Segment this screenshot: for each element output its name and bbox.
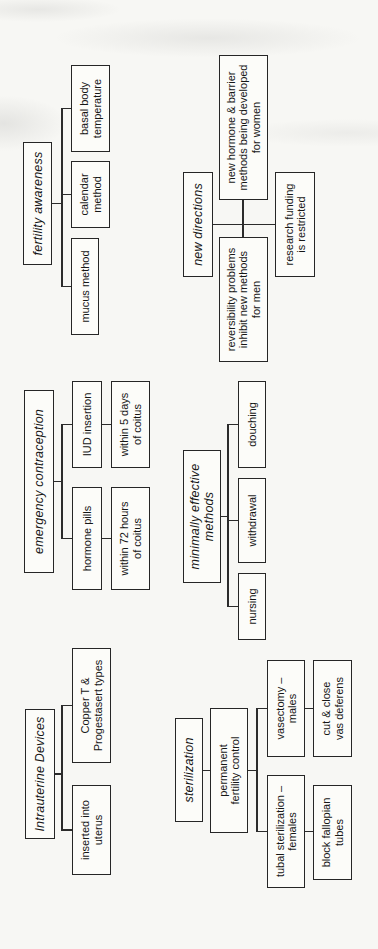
node-iud-insertion: IUD insertion [72, 381, 102, 468]
node-mucus-method: mucus method [71, 238, 99, 335]
node-cut-close-vas-deferens: cut & close vas deferens [313, 660, 352, 757]
heading-label: fertility awareness [31, 152, 45, 256]
node-inserted-into-uterus: inserted into uterus [72, 785, 111, 875]
node-label: block fallopian tubes [320, 798, 345, 868]
connector-tubal-stub [257, 831, 267, 833]
node-label: new hormone & barrier methods being deve… [225, 65, 263, 191]
heading-label: sterilization [182, 737, 196, 802]
connector-basal-stub [62, 108, 71, 110]
connector-intrauterine-bus [61, 705, 63, 831]
node-label: permanent fertility control [217, 737, 242, 805]
connector-calendar-stub [62, 194, 71, 196]
heading-emergency-contraception: emergency contraception [24, 390, 54, 573]
connector-withdrawal-stub [228, 520, 238, 522]
node-label: IUD insertion [81, 393, 94, 457]
node-label: within 72 hours of coitus [118, 502, 143, 576]
heading-label: new directions [191, 183, 205, 266]
node-block-fallopian-tubes: block fallopian tubes [313, 785, 352, 880]
node-within-72-hours-of-coitus: within 72 hours of coitus [111, 487, 150, 590]
connector-douching-stub [228, 424, 238, 426]
connector-block-stub [305, 831, 313, 833]
node-withdrawal: withdrawal [238, 478, 266, 563]
node-douching: douching [238, 381, 266, 468]
node-calendar-method: calendar method [71, 161, 110, 228]
node-nursing: nursing [238, 573, 266, 640]
node-label: withdrawal [246, 495, 259, 547]
connector-iud-stub [62, 424, 72, 426]
node-label: douching [246, 402, 259, 447]
heading-intrauterine-devices: Intrauterine Devices [25, 709, 55, 839]
node-permanent-fertility-control: permanent fertility control [210, 708, 248, 833]
node-label: calendar method [78, 173, 103, 215]
connector-5days-stub [102, 424, 111, 426]
heading-fertility-awareness: fertility awareness [23, 142, 52, 265]
node-label: hormone pills [81, 506, 94, 571]
connector-hormone-stub [62, 538, 72, 540]
node-label: nursing [246, 588, 259, 624]
heading-sterilization: sterilization [175, 718, 203, 822]
heading-new-directions: new directions [183, 172, 213, 277]
node-hormone-pills: hormone pills [72, 487, 102, 590]
node-tubal-sterilization-females: tubal sterilization – females [267, 775, 305, 888]
connector-nursing-stub [228, 606, 238, 608]
node-within-5-days-of-coitus: within 5 days of coitus [111, 381, 150, 468]
connector-inserted-stub [62, 829, 72, 831]
connector-sterilization-bus [256, 708, 258, 833]
node-label: tubal sterilization – females [274, 786, 299, 877]
node-label: mucus method [79, 250, 92, 322]
connector-fertility-bus [61, 108, 63, 288]
node-label: within 5 days of coitus [118, 393, 143, 457]
node-label: inserted into uterus [79, 800, 104, 860]
connector-vasectomy-stub [257, 708, 267, 710]
node-label: cut & close vas deferens [320, 677, 345, 740]
heading-label: minimally effective methods [188, 464, 216, 570]
node-label: research funding is restricted [283, 184, 308, 266]
node-label: basal body temperature [78, 79, 103, 138]
heading-label: emergency contraception [32, 409, 46, 554]
connector-newdirections-cross [242, 200, 244, 237]
connector-sterilization-stem [203, 770, 210, 772]
node-label: reversibility problems inhibit new metho… [225, 248, 263, 351]
heading-label: Intrauterine Devices [33, 716, 47, 831]
connector-minimally-bus [227, 424, 229, 608]
node-vasectomy-males: vasectomy – males [267, 660, 305, 757]
scanned-page: Intrauterine Devices inserted into uteru… [0, 0, 378, 949]
node-new-hormone-barrier-methods: new hormone & barrier methods being deve… [219, 55, 268, 200]
node-research-funding-restricted: research funding is restricted [275, 172, 315, 277]
diagram-canvas: Intrauterine Devices inserted into uteru… [0, 0, 378, 949]
connector-copper-stub [62, 705, 72, 707]
connector-cut-stub [305, 708, 313, 710]
node-reversibility-problems: reversibility problems inhibit new metho… [219, 237, 268, 362]
node-label: Copper T & Progestasert types [79, 660, 104, 752]
connector-mucus-stub [62, 286, 71, 288]
connector-72hours-stub [102, 538, 111, 540]
connector-emergency-bus [61, 424, 63, 540]
connector-newdirections-stem [213, 224, 275, 226]
heading-minimally-effective-methods: minimally effective methods [183, 450, 221, 583]
node-basal-body-temperature: basal body temperature [71, 65, 110, 152]
node-copper-t-progestasert-types: Copper T & Progestasert types [72, 648, 111, 763]
node-label: vasectomy – males [274, 678, 299, 740]
